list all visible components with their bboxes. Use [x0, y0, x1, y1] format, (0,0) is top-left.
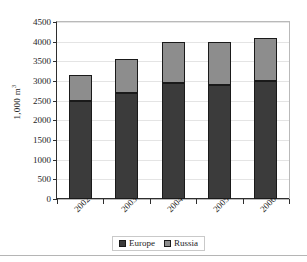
y-axis-label: 1000 [33, 155, 51, 165]
bar-segment-russia-2006[interactable] [254, 38, 277, 81]
y-axis-tick [53, 81, 57, 82]
x-axis-tick [150, 199, 151, 204]
x-axis-tick [196, 199, 197, 204]
legend-swatch-europe [119, 240, 126, 247]
y-axis-tick [53, 160, 57, 161]
bar-2005[interactable] [208, 42, 231, 199]
bar-segment-russia-2002[interactable] [69, 75, 92, 101]
y-axis-label: 3000 [33, 76, 51, 86]
y-axis-tick [53, 179, 57, 180]
bar-segment-europe-2005[interactable] [208, 85, 231, 199]
legend-label-russia: Russia [174, 238, 198, 248]
y-axis-title: 1,000 m3 [10, 62, 22, 142]
y-axis-label: 3500 [33, 56, 51, 66]
footer-divider [0, 255, 307, 256]
legend-item-russia[interactable]: Russia [164, 238, 198, 248]
x-axis-tick [243, 199, 244, 204]
x-axis-tick [289, 199, 290, 204]
bar-segment-russia-2005[interactable] [208, 42, 231, 85]
chart-legend: Europe Russia [112, 236, 205, 251]
x-axis-tick [103, 199, 104, 204]
y-axis-label: 2500 [33, 96, 51, 106]
bar-segment-europe-2003[interactable] [115, 93, 138, 199]
y-axis-tick [53, 101, 57, 102]
y-axis-label: 4500 [33, 17, 51, 27]
y-axis-title-superscript: 3 [10, 84, 17, 88]
y-axis-label: 500 [38, 174, 52, 184]
gridline [57, 22, 289, 23]
y-axis-title-text: 1,000 m [12, 88, 22, 120]
stacked-bar-chart-figure: 1,000 m3 0500100015002000250030003500400… [0, 0, 307, 262]
x-axis-tick [57, 199, 58, 204]
y-axis-label: 0 [47, 194, 52, 204]
bar-segment-russia-2004[interactable] [162, 42, 185, 83]
bar-2006[interactable] [254, 38, 277, 199]
legend-swatch-russia [164, 240, 171, 247]
y-axis-label: 1500 [33, 135, 51, 145]
y-axis-label: 2000 [33, 115, 51, 125]
bar-segment-europe-2002[interactable] [69, 101, 92, 199]
bar-2002[interactable] [69, 75, 92, 199]
y-axis-tick [53, 120, 57, 121]
bar-segment-russia-2003[interactable] [115, 59, 138, 92]
y-axis-tick [53, 42, 57, 43]
y-axis-tick [53, 140, 57, 141]
bar-segment-europe-2006[interactable] [254, 81, 277, 199]
legend-item-europe[interactable]: Europe [119, 238, 155, 248]
y-axis-tick [53, 22, 57, 23]
bar-2004[interactable] [162, 42, 185, 199]
legend-label-europe: Europe [129, 238, 155, 248]
y-axis-tick [53, 61, 57, 62]
bar-2003[interactable] [115, 59, 138, 199]
plot-area: 0500100015002000250030003500400045002002… [56, 21, 290, 200]
bar-segment-europe-2004[interactable] [162, 83, 185, 199]
y-axis-label: 4000 [33, 37, 51, 47]
